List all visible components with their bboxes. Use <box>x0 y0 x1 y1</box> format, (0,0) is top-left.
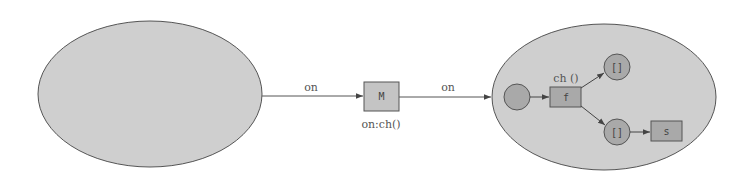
node-lower-label: [] <box>611 127 623 138</box>
node-lower[interactable]: [] <box>604 119 630 145</box>
node-s[interactable]: s <box>651 121 682 141</box>
diagram-canvas: on M on:ch() on f ch () [] [] s <box>0 0 753 178</box>
node-s-label: s <box>663 126 669 137</box>
start-node-circle[interactable] <box>504 84 530 110</box>
edge-left-to-m-label: on <box>304 81 318 94</box>
edge-m-to-right-label: on <box>441 81 455 94</box>
node-m[interactable]: M <box>364 82 399 111</box>
node-f[interactable]: f <box>550 87 581 107</box>
node-upper-label: [] <box>611 62 623 73</box>
node-upper[interactable]: [] <box>604 54 630 80</box>
node-m-label: M <box>378 91 384 102</box>
node-f-caption: ch () <box>553 72 578 85</box>
left-group-ellipse[interactable] <box>38 21 262 167</box>
node-m-caption: on:ch() <box>361 118 400 131</box>
node-f-label: f <box>563 92 569 103</box>
